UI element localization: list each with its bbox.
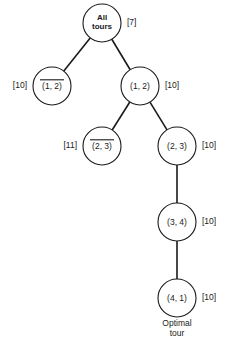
- node-label: (1, 2): [130, 81, 150, 91]
- tree-node[interactable]: (4, 1): [158, 279, 196, 317]
- tree-edge: [112, 102, 130, 130]
- node-bound-label: [10]: [165, 80, 179, 90]
- node-label: (3, 4): [167, 217, 187, 227]
- node-bound-label: [10]: [13, 80, 27, 90]
- captions-layer: Optimaltour: [162, 318, 191, 338]
- node-label: (2, 3): [167, 141, 187, 151]
- diagram-caption-line: Optimal: [162, 318, 191, 328]
- tree-node[interactable]: (2, 3): [158, 127, 196, 165]
- tree-node[interactable]: (3, 4): [158, 203, 196, 241]
- tree-edge: [64, 38, 90, 71]
- node-bound-label: [10]: [202, 292, 216, 302]
- tree-node[interactable]: (1, 2): [121, 67, 159, 105]
- node-bound-label: [10]: [202, 216, 216, 226]
- tree-node[interactable]: Alltours: [83, 4, 121, 42]
- tree-edge: [150, 102, 167, 130]
- node-label: tours: [92, 22, 113, 31]
- branch-and-bound-tree: Alltours(1, 2)(1, 2)(2, 3)(2, 3)(3, 4)(4…: [0, 0, 238, 345]
- tree-node[interactable]: (1, 2): [33, 67, 71, 105]
- diagram-caption-line: tour: [170, 328, 185, 338]
- edges-layer: [64, 38, 177, 279]
- tree-edge: [112, 39, 130, 69]
- node-label: (4, 1): [167, 293, 187, 303]
- node-bound-label: [11]: [63, 140, 77, 150]
- node-bound-label: [10]: [202, 140, 216, 150]
- node-label: (2, 3): [92, 141, 112, 151]
- tree-node[interactable]: (2, 3): [83, 127, 121, 165]
- nodes-layer: Alltours(1, 2)(1, 2)(2, 3)(2, 3)(3, 4)(4…: [33, 4, 196, 317]
- node-label: (1, 2): [42, 81, 62, 91]
- node-bound-label: [7]: [127, 17, 136, 27]
- diagram-canvas: Alltours(1, 2)(1, 2)(2, 3)(2, 3)(3, 4)(4…: [0, 0, 238, 345]
- node-label: All: [97, 13, 107, 22]
